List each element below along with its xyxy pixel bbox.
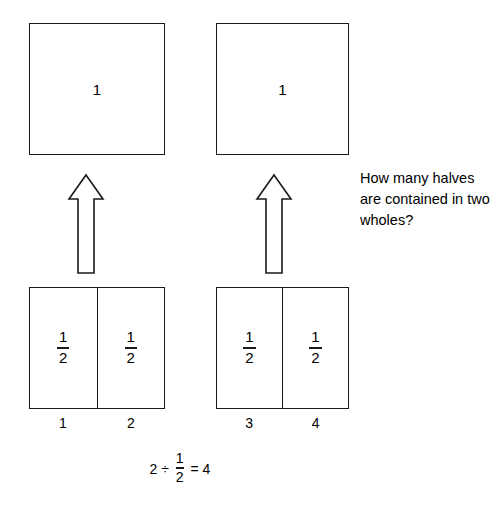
equation-equals-sign: = (191, 461, 199, 477)
count-row-right: 3 4 (216, 415, 349, 431)
count-label: 1 (29, 415, 97, 431)
fraction-one-half: 1 2 (125, 329, 137, 366)
half-cell: 1 2 (282, 288, 348, 408)
halves-square-1: 1 2 1 2 (29, 287, 165, 409)
up-arrow-right (254, 173, 294, 279)
fraction-denominator: 2 (243, 350, 255, 367)
fraction-numerator: 1 (176, 451, 184, 466)
fraction-one-half: 1 2 (57, 329, 69, 366)
fraction-denominator: 2 (57, 350, 69, 367)
fraction-one-half: 1 2 (243, 329, 255, 366)
equation-divide-sign: ÷ (161, 461, 169, 477)
fraction-numerator: 1 (243, 329, 255, 346)
count-label: 4 (283, 415, 350, 431)
equation: 2 ÷ 1 2 = 4 (0, 452, 360, 486)
fraction-numerator: 1 (309, 329, 321, 346)
up-arrow-left (66, 173, 106, 279)
fraction-numerator: 1 (57, 329, 69, 346)
half-cell: 1 2 (30, 288, 97, 408)
halves-square-2: 1 2 1 2 (216, 287, 349, 409)
count-label: 3 (216, 415, 283, 431)
half-cell: 1 2 (217, 288, 282, 408)
question-text: How many halves are contained in two who… (360, 168, 496, 231)
equation-divisor-fraction: 1 2 (176, 451, 184, 485)
count-label: 2 (97, 415, 165, 431)
whole-square-1-label: 1 (30, 82, 164, 97)
equation-dividend: 2 (150, 461, 158, 477)
fraction-numerator: 1 (125, 329, 137, 346)
fraction-denominator: 2 (309, 350, 321, 367)
whole-square-1: 1 (29, 23, 165, 155)
fraction-denominator: 2 (176, 470, 184, 485)
whole-square-2: 1 (216, 23, 349, 155)
diagram-canvas: 1 1 How many halves are contained in two… (0, 0, 501, 524)
equation-result: 4 (203, 461, 211, 477)
half-cell: 1 2 (97, 288, 165, 408)
whole-square-2-label: 1 (217, 82, 348, 97)
fraction-one-half: 1 2 (309, 329, 321, 366)
count-row-left: 1 2 (29, 415, 165, 431)
fraction-denominator: 2 (125, 350, 137, 367)
